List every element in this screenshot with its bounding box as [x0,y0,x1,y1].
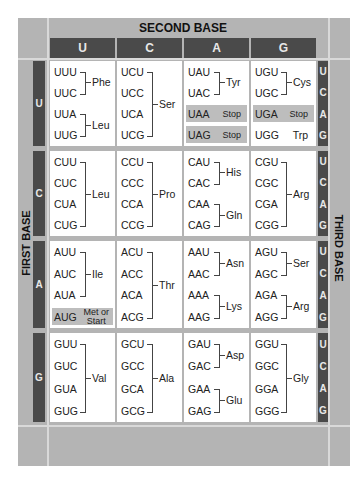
third-base-c: C [319,268,326,279]
codon: GGA [255,383,278,395]
codon-cell-uu: UUUUUCUUAUUGPheLeu [50,61,115,146]
amino-acid-label: Tyr [226,76,241,88]
codon: AAA [188,289,209,301]
bracket-tick [220,172,225,173]
bracket [214,295,220,319]
amino-acid-label: Ser [159,98,175,110]
amino-acid-label: Leu [92,188,110,200]
third-base-strip: UCAG [318,333,328,422]
codon: CUC [54,177,77,189]
codon-cell-cg: CGUCGCCGACGGArg [251,151,316,236]
amino-acid-label: Phe [92,76,111,88]
third-base-c: C [319,361,326,372]
third-base-strip: UCAG [318,241,328,328]
codon: GAC [188,360,211,372]
codon: ACU [121,246,143,258]
codon: CAA [188,198,210,210]
codon: GCA [121,383,144,395]
codon: GGU [255,338,279,350]
codon: UCA [121,108,143,120]
codon: CGA [255,198,278,210]
bracket-tick [220,82,225,83]
codon-cell-gc: GCUGCCGCAGCGAla [117,333,182,422]
amino-acid-label: Lys [226,300,242,312]
codon-cell-aa: AAUAACAAAAAGAsnLys [184,241,249,328]
codon: GGG [255,405,280,417]
codon-highlight: UAGStop [186,126,247,143]
first-base-c: C [33,151,45,236]
codon: CGG [255,219,279,231]
codon: UGU [255,66,278,78]
bracket-tick [220,400,225,401]
codon: GCU [121,338,144,350]
codon-cell-gu: GUUGUCGUAGUGVal [50,333,115,422]
codon: GAG [188,405,211,417]
bracket [214,162,220,185]
amino-acid-label: Glu [226,394,242,406]
codon: UCU [121,66,144,78]
codon-cell-au: AUUAUCAUAAUGMet orStartIle [50,241,115,328]
bracket-tick [86,274,91,275]
bracket [147,162,153,228]
codon: UAC [188,87,210,99]
amino-acid-label: Cys [293,76,311,88]
bracket-tick [86,194,91,195]
codon-cell-cu: CUUCUCCUACUGLeu [50,151,115,236]
amino-acid-label: Asp [226,349,244,361]
bracket [214,204,220,227]
codon-cell-ua: UAUUACUAAStopUAGStopTyr [184,61,249,146]
codon: AUA [54,289,76,301]
bracket-tick [287,263,292,264]
third-base-a: A [319,109,326,120]
amino-acid-label: Stop [289,108,308,120]
codon: CCC [121,177,144,189]
codon: CCG [121,219,144,231]
bracket [214,252,220,276]
third-base-g: G [319,312,327,323]
amino-acid-label: Arg [293,188,309,200]
bracket [80,114,86,137]
codon: UGA [255,108,278,120]
third-base-c: C [319,87,326,98]
codon: UUG [54,129,77,141]
codon-cell-ag: AGUAGCAGAAGGSerArg [251,241,316,328]
amino-acid-label: Trp [293,129,308,141]
bracket [281,72,287,95]
bracket [80,72,86,95]
codon: UAG [188,129,211,141]
amino-acid-label: Asn [226,257,244,269]
codon: AUG [54,311,77,323]
bracket-tick [220,263,225,264]
amino-acid-label: Leu [92,119,110,131]
separator-right [328,18,330,466]
codon-cell-ac: ACUACCACAACGThr [117,241,182,328]
amino-acid-label: Val [92,372,106,384]
codon: CUU [54,156,77,168]
amino-acid-label: His [226,166,241,178]
amino-acid-label: Arg [293,300,309,312]
bracket [147,252,153,319]
codon-cell-ca: CAUCACCAACAGHisGln [184,151,249,236]
bracket [281,252,287,276]
codon: UAA [188,108,210,120]
separator-left [47,18,49,466]
codon-highlight: AUGMet orStart [52,308,113,325]
bracket-tick [287,194,292,195]
codon-cell-cc: CCUCCCCCACCGPro [117,151,182,236]
bracket [214,389,220,413]
amino-acid-label: Gly [293,372,309,384]
separator-header [18,58,350,60]
third-base-g: G [319,405,327,416]
codon: GAA [188,383,210,395]
third-base-u: U [319,246,326,257]
codon: CAG [188,219,211,231]
bracket-tick [86,82,91,83]
bracket-tick [153,194,158,195]
codon: AGC [255,268,278,280]
bracket-tick [153,285,158,286]
third-base-c: C [319,177,326,188]
amino-acid-label: Ile [92,268,103,280]
third-base-g: G [319,130,327,141]
codon: AGU [255,246,278,258]
codon: ACC [121,268,143,280]
